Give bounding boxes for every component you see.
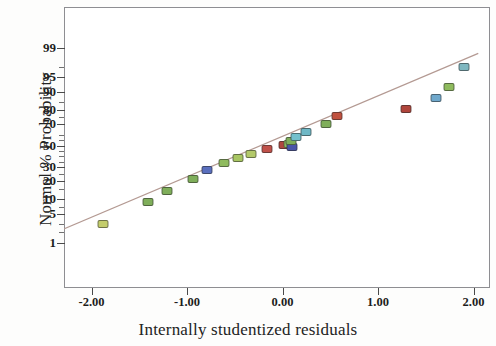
y-tick-major [57, 92, 65, 93]
y-tick-major [57, 181, 65, 182]
data-point-marker [400, 105, 411, 113]
normal-probability-plot: 99959080705030201051 -2.00-1.000.001.002… [0, 0, 496, 346]
x-tick-label: -1.00 [174, 295, 200, 310]
y-tick-minor [59, 162, 64, 163]
data-point-marker [431, 94, 442, 102]
x-tick-major [187, 288, 188, 295]
data-point-marker [245, 150, 256, 158]
data-point-marker [97, 220, 108, 228]
y-tick-major [57, 214, 65, 215]
data-point-marker [219, 159, 230, 167]
x-tick-label: -2.00 [78, 295, 104, 310]
data-point-marker [161, 187, 172, 195]
y-tick-minor [59, 67, 64, 68]
y-tick-minor [59, 232, 64, 233]
data-point-marker [262, 145, 273, 153]
y-tick-major [57, 167, 65, 168]
plot-svg [64, 7, 490, 288]
data-point-marker [232, 154, 243, 162]
data-point-marker [301, 128, 312, 136]
y-tick-major [57, 199, 65, 200]
y-tick-major [57, 48, 65, 49]
data-point-marker [331, 112, 342, 120]
y-tick-major [57, 243, 65, 244]
y-tick-major [57, 146, 65, 147]
data-point-marker [202, 166, 213, 174]
data-point-marker [187, 175, 198, 183]
data-point-marker [290, 133, 301, 141]
data-point-marker [458, 63, 469, 71]
data-point-marker [321, 120, 332, 128]
x-tick-major [92, 288, 93, 295]
x-tick-major [474, 288, 475, 295]
y-tick-minor [59, 156, 64, 157]
y-tick-major [57, 77, 65, 78]
y-tick-major [57, 124, 65, 125]
y-tick-minor [59, 117, 64, 118]
y-tick-minor [59, 102, 64, 103]
y-tick-minor [59, 189, 64, 190]
y-tick-minor [59, 140, 64, 141]
x-tick-label: 1.00 [367, 295, 389, 310]
data-point-marker [142, 198, 153, 206]
x-tick-label: 0.00 [272, 295, 294, 310]
y-tick-minor [59, 174, 64, 175]
y-axis-title: Normal % Probability [36, 19, 56, 279]
y-tick-minor [59, 224, 64, 225]
y-tick-minor [59, 151, 64, 152]
y-tick-minor [59, 135, 64, 136]
y-tick-minor [59, 207, 64, 208]
data-point-marker [443, 83, 454, 91]
x-tick-label: 2.00 [463, 295, 485, 310]
x-axis-title: Internally studentized residuals [0, 320, 496, 340]
plot-area [64, 7, 490, 288]
x-tick-major [283, 288, 284, 295]
y-tick-major [57, 110, 65, 111]
x-tick-major [378, 288, 379, 295]
